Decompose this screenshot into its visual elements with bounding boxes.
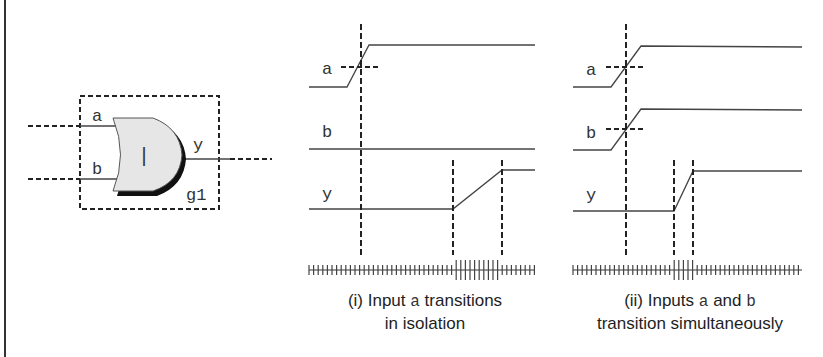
timing-panel-i: a b y	[309, 24, 535, 280]
signal-b-label: b	[322, 123, 332, 142]
timing-panel-ii: a b y	[573, 24, 802, 280]
caption-signal-b: b	[746, 293, 756, 311]
caption-signal-a: a	[410, 293, 420, 311]
caption-line2: in isolation	[310, 313, 540, 335]
gate-input-a-label: a	[92, 107, 102, 126]
caption-signal-a: a	[699, 293, 709, 311]
gate-name-label: g1	[186, 186, 206, 205]
waveform-y	[573, 171, 802, 211]
caption-suffix: transitions	[425, 291, 502, 310]
time-ruler	[309, 260, 535, 280]
signal-a-label: a	[586, 61, 596, 80]
time-ruler	[573, 260, 802, 280]
signal-a-label: a	[322, 60, 332, 79]
caption-prefix: (i) Input	[348, 291, 406, 310]
caption-mid: and	[713, 291, 741, 310]
gate-symbol: |	[138, 145, 150, 168]
caption-prefix: (ii) Inputs	[624, 291, 694, 310]
caption-line2: transition simultaneously	[570, 313, 810, 335]
signal-y-label: y	[586, 186, 596, 205]
signal-y-label: y	[322, 185, 332, 204]
or-gate-diagram: | a b y g1	[28, 96, 272, 209]
gate-input-b-label: b	[92, 160, 102, 179]
caption-panel-i: (i) Input a transitions in isolation	[310, 290, 540, 335]
gate-output-y-label: y	[193, 136, 203, 155]
signal-b-label: b	[586, 124, 596, 143]
caption-panel-ii: (ii) Inputs a and b transition simultane…	[570, 290, 810, 335]
